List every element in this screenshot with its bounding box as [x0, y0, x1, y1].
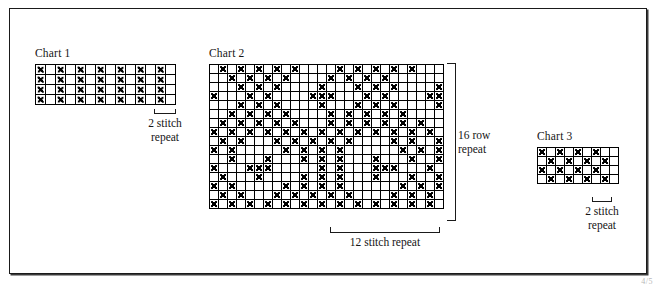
stitch-cell-marked [219, 119, 228, 128]
stitch-cell-empty [300, 65, 309, 74]
stitch-cell-marked [291, 137, 300, 146]
stitch-cell-empty [327, 101, 336, 110]
stitch-cell-empty [363, 173, 372, 182]
stitch-cell-marked [390, 65, 399, 74]
stitch-cell-empty [426, 173, 435, 182]
stitch-cell-marked [291, 191, 300, 200]
stitch-cell-empty [556, 157, 565, 166]
stitch-cell-marked [318, 101, 327, 110]
stitch-cell-empty [264, 83, 273, 92]
chart-2-stitch-repeat-caption: 12 stitch repeat [325, 235, 445, 249]
stitch-cell-empty [282, 65, 291, 74]
stitch-cell-empty [408, 164, 417, 173]
stitch-cell-empty [255, 182, 264, 191]
stitch-cell-empty [345, 182, 354, 191]
stitch-cell-marked [336, 164, 345, 173]
stitch-cell-marked [76, 65, 86, 75]
chart-3-title: Chart 3 [537, 130, 573, 142]
stitch-cell-marked [156, 75, 166, 85]
stitch-cell-empty [219, 155, 228, 164]
stitch-cell-empty [363, 191, 372, 200]
stitch-cell-marked [592, 166, 601, 175]
stitch-cell-empty [327, 146, 336, 155]
stitch-cell-marked [255, 173, 264, 182]
stitch-cell-empty [354, 182, 363, 191]
stitch-cell-empty [592, 157, 601, 166]
stitch-cell-marked [136, 85, 146, 95]
stitch-cell-empty [435, 164, 444, 173]
stitch-cell-marked [116, 65, 126, 75]
stitch-cell-marked [372, 83, 381, 92]
stitch-cell-empty [363, 155, 372, 164]
stitch-cell-marked [556, 166, 565, 175]
stitch-cell-empty [309, 200, 318, 209]
stitch-cell-empty [228, 191, 237, 200]
stitch-cell-empty [210, 173, 219, 182]
stitch-cell-marked [56, 65, 66, 75]
stitch-cell-empty [228, 83, 237, 92]
stitch-cell-marked [237, 101, 246, 110]
chart-2-row-repeat-caption: 16 row repeat [458, 128, 510, 156]
stitch-cell-marked [273, 101, 282, 110]
stitch-cell-empty [327, 128, 336, 137]
stitch-cell-marked [363, 74, 372, 83]
stitch-cell-empty [408, 101, 417, 110]
stitch-cell-marked [345, 110, 354, 119]
stitch-cell-marked [282, 200, 291, 209]
stitch-cell-marked [291, 119, 300, 128]
stitch-cell-empty [300, 74, 309, 83]
stitch-cell-empty [538, 175, 547, 184]
stitch-cell-marked [381, 164, 390, 173]
chart-2-row-repeat-bracket [447, 63, 456, 221]
stitch-cell-empty [219, 182, 228, 191]
stitch-cell-empty [610, 175, 619, 184]
stitch-cell-marked [372, 155, 381, 164]
stitch-cell-marked [76, 85, 86, 95]
stitch-cell-empty [282, 155, 291, 164]
stitch-cell-empty [381, 182, 390, 191]
stitch-cell-empty [363, 200, 372, 209]
stitch-cell-empty [381, 83, 390, 92]
stitch-cell-empty [210, 119, 219, 128]
stitch-cell-empty [390, 92, 399, 101]
stitch-cell-empty [345, 83, 354, 92]
stitch-cell-empty [354, 74, 363, 83]
stitch-cell-empty [426, 65, 435, 74]
stitch-cell-marked [219, 137, 228, 146]
stitch-cell-marked [390, 200, 399, 209]
stitch-cell-marked [264, 92, 273, 101]
stitch-cell-empty [336, 137, 345, 146]
stitch-cell-marked [264, 110, 273, 119]
stitch-cell-marked [327, 74, 336, 83]
stitch-cell-empty [363, 83, 372, 92]
stitch-cell-empty [336, 119, 345, 128]
stitch-cell-empty [291, 74, 300, 83]
stitch-cell-empty [273, 146, 282, 155]
stitch-cell-empty [166, 95, 176, 105]
stitch-cell-empty [300, 191, 309, 200]
stitch-cell-empty [381, 65, 390, 74]
stitch-cell-marked [36, 75, 46, 85]
stitch-cell-empty [300, 164, 309, 173]
stitch-cell-marked [408, 137, 417, 146]
stitch-cell-empty [237, 164, 246, 173]
stitch-cell-empty [390, 110, 399, 119]
stitch-cell-marked [36, 85, 46, 95]
stitch-cell-empty [538, 157, 547, 166]
stitch-cell-empty [126, 65, 136, 75]
stitch-cell-empty [345, 65, 354, 74]
stitch-cell-empty [399, 164, 408, 173]
stitch-cell-marked [228, 146, 237, 155]
stitch-cell-marked [327, 137, 336, 146]
stitch-cell-marked [255, 83, 264, 92]
stitch-cell-empty [264, 173, 273, 182]
stitch-cell-marked [372, 101, 381, 110]
stitch-cell-empty [300, 83, 309, 92]
stitch-cell-marked [96, 85, 106, 95]
stitch-cell-empty [417, 83, 426, 92]
chart-3-repeat-caption: 2 stitch repeat [567, 204, 637, 232]
stitch-cell-marked [565, 175, 574, 184]
stitch-cell-empty [300, 92, 309, 101]
stitch-cell-marked [538, 148, 547, 157]
stitch-cell-empty [126, 95, 136, 105]
